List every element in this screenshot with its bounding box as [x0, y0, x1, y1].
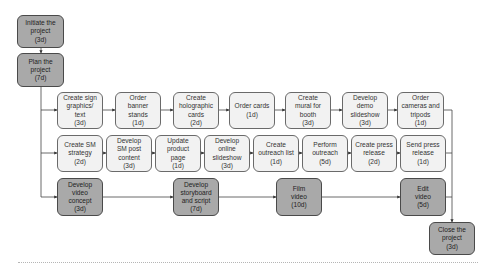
node-create-press-release: Create press release (2d) — [351, 135, 397, 172]
node-order-cards: Order cards (1d) — [229, 92, 275, 129]
node-film-video: Film video (10d) — [276, 178, 322, 216]
node-develop-online-slideshow: Develop online slideshow (3d) — [204, 135, 250, 172]
node-update-product-page: Update product page (1d) — [155, 135, 201, 172]
node-create-holographic-cards: Create holographic cards (2d) — [173, 92, 219, 129]
node-edit-video: Edit video (5d) — [400, 178, 446, 216]
node-create-sign-graphics: Create sign graphics/ text (3d) — [57, 92, 103, 129]
bottom-divider — [18, 262, 478, 263]
node-send-press-release: Send press release (1d) — [400, 135, 446, 172]
node-create-outreach-list: Create outreach list (1d) — [253, 135, 299, 172]
node-create-sm-strategy: Create SM strategy (2d) — [57, 135, 103, 172]
node-develop-demo-slideshow: Develop demo slideshow (3d) — [342, 92, 388, 129]
node-create-mural: Create mural for booth (3d) — [285, 92, 331, 129]
node-order-banner-stands: Order banner stands (1d) — [115, 92, 161, 129]
node-order-cameras: Order cameras and tripods (1d) — [397, 92, 444, 129]
node-develop-storyboard: Develop storyboard and script (7d) — [173, 178, 219, 216]
node-develop-sm-post: Develop SM post content (3d) — [106, 135, 152, 172]
node-close-project: Close the project (3d) — [429, 222, 475, 255]
node-initiate-project: Initiate the project (3d) — [17, 15, 64, 48]
project-flowchart: Initiate the project (3d) Plan the proje… — [0, 0, 493, 273]
node-plan-project: Plan the project (7d) — [17, 53, 64, 87]
node-develop-video-concept: Develop video concept (3d) — [57, 178, 103, 216]
node-perform-outreach: Perform outreach (5d) — [302, 135, 348, 172]
